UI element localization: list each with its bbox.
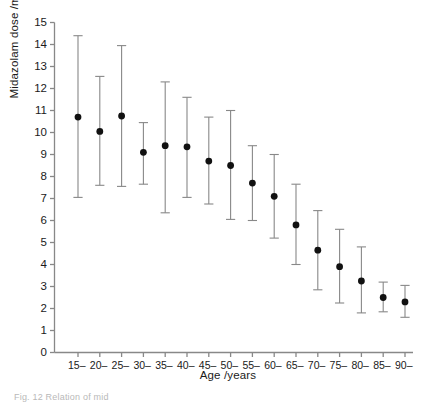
data-point-group: [313, 211, 322, 290]
data-point-group: [95, 76, 104, 185]
y-tick-label: 6: [25, 215, 47, 227]
series-0: [73, 36, 409, 318]
data-point-marker: [314, 247, 321, 254]
x-tick-label: 15–: [68, 360, 86, 371]
data-point-group: [357, 247, 366, 313]
data-point-group: [161, 82, 170, 213]
data-point-group: [182, 97, 191, 197]
x-tick-label: 25–: [112, 360, 130, 371]
y-tick-label: 15: [25, 17, 47, 29]
x-axis-label: Age /years: [0, 369, 431, 381]
data-point-marker: [75, 114, 82, 121]
x-tick-label: 40–: [177, 360, 195, 371]
x-tick-label: 35–: [155, 360, 173, 371]
x-tick-label: 85–: [373, 360, 391, 371]
data-point-marker: [118, 113, 125, 120]
figure-caption: Fig. 12 Relation of mid: [14, 392, 109, 402]
data-point-marker: [336, 263, 343, 270]
data-point-group: [291, 184, 300, 264]
y-tick-label: 12: [25, 83, 47, 95]
x-tick-label: 60–: [264, 360, 282, 371]
data-point-marker: [184, 143, 191, 150]
data-point-group: [400, 285, 409, 317]
x-tick-label: 65–: [286, 360, 304, 371]
data-point-group: [248, 146, 257, 221]
y-tick-label: 7: [25, 193, 47, 205]
data-point-marker: [358, 278, 365, 285]
data-point-marker: [162, 142, 169, 149]
data-point-group: [335, 229, 344, 303]
data-point-group: [270, 155, 279, 239]
x-tick-label: 90–: [395, 360, 413, 371]
data-point-marker: [402, 299, 409, 306]
x-tick-label: 80–: [351, 360, 369, 371]
y-tick-label: 9: [25, 149, 47, 161]
x-tick-label: 70–: [308, 360, 326, 371]
data-point-marker: [205, 158, 212, 165]
data-point-marker: [380, 294, 387, 301]
y-tick-label: 2: [25, 303, 47, 315]
y-tick-label: 3: [25, 281, 47, 293]
data-point-group: [204, 117, 213, 204]
data-point-group: [139, 123, 148, 185]
y-tick-label: 5: [25, 237, 47, 249]
y-tick-label: 14: [25, 39, 47, 51]
data-point-marker: [96, 128, 103, 135]
data-point-marker: [140, 149, 147, 156]
midazolam-dose-vs-age-chart: Midazolam dose /mg Age /years 0123456789…: [0, 0, 431, 406]
x-tick-label: 20–: [90, 360, 108, 371]
y-tick-label: 13: [25, 61, 47, 73]
y-tick-label: 0: [25, 347, 47, 359]
y-tick-label: 4: [25, 259, 47, 271]
data-point-group: [226, 111, 235, 220]
y-tick-label: 11: [25, 105, 47, 117]
x-tick-label: 30–: [133, 360, 151, 371]
x-tick-label: 50–: [221, 360, 239, 371]
plot-area: [0, 0, 431, 406]
y-tick-label: 1: [25, 325, 47, 337]
data-point-marker: [227, 162, 234, 169]
x-tick-label: 45–: [199, 360, 217, 371]
data-point-group: [117, 46, 126, 187]
data-point-group: [379, 282, 388, 312]
data-point-group: [73, 36, 82, 198]
y-tick-label: 10: [25, 127, 47, 139]
x-tick-label: 75–: [330, 360, 348, 371]
y-axis-label: Midazolam dose /mg: [6, 0, 22, 124]
data-point-marker: [271, 193, 278, 200]
data-point-marker: [249, 180, 256, 187]
y-tick-label: 8: [25, 171, 47, 183]
x-tick-label: 55–: [242, 360, 260, 371]
data-point-marker: [293, 222, 300, 229]
